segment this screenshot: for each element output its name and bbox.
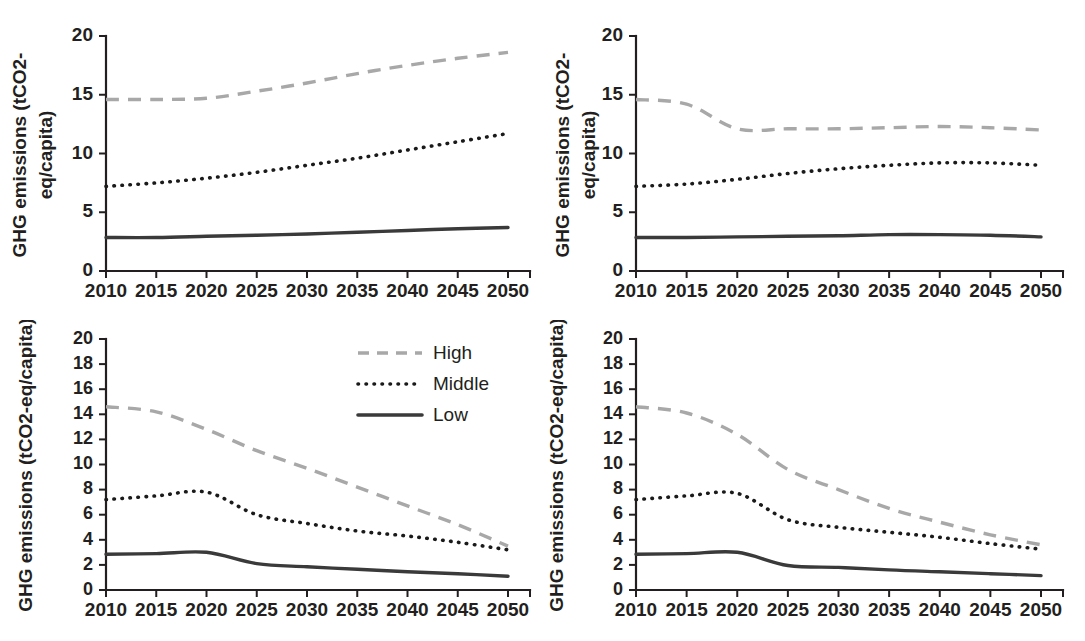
ghg-emissions-figure: GHG emissions (tCO2- eq/capita) 05101520… — [0, 0, 1085, 641]
y-tick-label: 10 — [602, 142, 623, 163]
y-tick-label: 15 — [72, 83, 94, 104]
x-tick-label: 2025 — [236, 599, 279, 620]
y-tick-label: 5 — [612, 200, 623, 221]
y-tick-label: 20 — [73, 328, 93, 348]
y-tick-label: 20 — [602, 24, 623, 45]
y-tick-label: 4 — [83, 529, 93, 549]
chart-panel-bottom-left: GHG emissions (tCO2-eq/capita) 024681012… — [0, 320, 543, 641]
legend: High Middle Low — [358, 342, 489, 425]
y-tick-label: 10 — [73, 453, 93, 473]
legend-label-middle: Middle — [433, 373, 489, 394]
x-tick-label: 2015 — [135, 599, 178, 620]
chart-svg-bottom-left: GHG emissions (tCO2-eq/capita) 024681012… — [0, 320, 543, 641]
chart-panel-top-right: GHG emissions (tCO2- eq/capita) 05101520… — [543, 0, 1085, 320]
x-tick-label: 2010 — [85, 599, 127, 620]
series-line-middle — [106, 134, 508, 187]
x-tick-label: 2045 — [969, 280, 1012, 301]
y-tick-label: 10 — [72, 142, 93, 163]
x-tick-label: 2020 — [185, 280, 227, 301]
x-tick-label: 2035 — [336, 599, 379, 620]
y-tick-label: 5 — [82, 200, 93, 221]
chart-panel-top-left: GHG emissions (tCO2- eq/capita) 05101520… — [0, 0, 543, 320]
x-tick-label: 2025 — [767, 599, 810, 620]
y-tick-label: 6 — [613, 503, 623, 523]
series-line-low — [106, 228, 508, 238]
y-ticks-bottom-right: 02468101214161820 — [603, 328, 636, 599]
y-tick-label: 14 — [73, 403, 93, 423]
y-tick-label: 2 — [83, 554, 93, 574]
x-tick-label: 2030 — [286, 280, 328, 301]
y-tick-label: 8 — [83, 478, 93, 498]
y-tick-label: 0 — [82, 259, 93, 280]
y-tick-label: 14 — [603, 403, 623, 423]
chart-svg-bottom-right: GHG emissions (tCO2-eq/capita) 024681012… — [543, 320, 1085, 641]
y-tick-label: 16 — [603, 378, 623, 398]
x-tick-label: 2020 — [185, 599, 227, 620]
y-axis-title-top-right: GHG emissions (tCO2- eq/capita) — [552, 53, 599, 258]
chart-panel-bottom-right: GHG emissions (tCO2-eq/capita) 024681012… — [543, 320, 1085, 641]
x-tick-label: 2040 — [386, 280, 428, 301]
series-line-high — [636, 407, 1041, 545]
y-tick-label: 4 — [613, 529, 623, 549]
y-tick-label: 0 — [83, 579, 93, 599]
legend-label-high: High — [433, 342, 472, 363]
y-axis-title-line1: GHG emissions (tCO2- — [9, 53, 30, 258]
x-tick-label: 2025 — [767, 280, 810, 301]
x-ticks-bottom-right: 201020152020202520302035204020452050 — [615, 590, 1063, 620]
y-tick-label: 18 — [73, 353, 93, 373]
y-axis-title: GHG emissions (tCO2-eq/capita) — [546, 320, 567, 612]
x-tick-label: 2010 — [85, 280, 127, 301]
y-axis-title-top-left: GHG emissions (tCO2- eq/capita) — [9, 53, 56, 258]
x-tick-label: 2030 — [286, 599, 328, 620]
x-tick-label: 2050 — [1020, 599, 1062, 620]
y-tick-label: 18 — [603, 353, 623, 373]
x-tick-label: 2015 — [665, 280, 708, 301]
x-tick-label: 2050 — [487, 599, 529, 620]
x-tick-label: 2020 — [716, 599, 758, 620]
x-tick-label: 2030 — [817, 599, 859, 620]
y-axis-title-line2: eq/capita) — [35, 111, 56, 200]
x-tick-label: 2050 — [1020, 280, 1062, 301]
chart-svg-top-right: GHG emissions (tCO2- eq/capita) 05101520… — [543, 0, 1085, 320]
x-tick-label: 2035 — [336, 280, 379, 301]
x-tick-label: 2045 — [969, 599, 1012, 620]
x-ticks-top-left: 201020152020202520302035204020452050 — [85, 271, 530, 301]
x-tick-label: 2040 — [919, 599, 961, 620]
x-tick-label: 2050 — [487, 280, 529, 301]
y-tick-label: 12 — [73, 428, 93, 448]
x-tick-label: 2035 — [868, 280, 911, 301]
x-tick-label: 2030 — [817, 280, 859, 301]
y-tick-label: 8 — [613, 478, 623, 498]
y-axis-title-line1: GHG emissions (tCO2- — [552, 53, 573, 258]
series-line-high — [636, 100, 1041, 131]
x-tick-label: 2010 — [615, 599, 657, 620]
y-ticks-top-left: 05101520 — [72, 24, 106, 280]
x-tick-label: 2015 — [135, 280, 178, 301]
x-tick-label: 2045 — [437, 599, 480, 620]
x-tick-label: 2015 — [665, 599, 708, 620]
y-tick-label: 10 — [603, 453, 623, 473]
y-axis-title-line2: eq/capita) — [578, 111, 599, 200]
y-tick-label: 6 — [83, 503, 93, 523]
x-tick-label: 2040 — [919, 280, 961, 301]
y-axis-title: GHG emissions (tCO2-eq/capita) — [15, 320, 36, 612]
y-tick-label: 20 — [72, 24, 93, 45]
x-tick-label: 2010 — [615, 280, 657, 301]
series-line-middle — [636, 492, 1041, 549]
series-line-low — [106, 552, 508, 576]
legend-label-low: Low — [433, 404, 468, 425]
y-tick-label: 0 — [612, 259, 623, 280]
x-tick-label: 2045 — [437, 280, 480, 301]
x-tick-label: 2020 — [716, 280, 758, 301]
x-ticks-top-right: 201020152020202520302035204020452050 — [615, 271, 1063, 301]
y-ticks-bottom-left: 02468101214161820 — [73, 328, 106, 599]
series-line-low — [636, 234, 1041, 237]
y-tick-label: 20 — [603, 328, 623, 348]
y-ticks-top-right: 05101520 — [602, 24, 636, 280]
x-tick-label: 2040 — [386, 599, 428, 620]
series-line-middle — [636, 163, 1041, 187]
x-ticks-bottom-left: 201020152020202520302035204020452050 — [85, 590, 530, 620]
series-line-low — [636, 552, 1041, 576]
x-tick-label: 2025 — [236, 280, 279, 301]
y-tick-label: 2 — [613, 554, 623, 574]
